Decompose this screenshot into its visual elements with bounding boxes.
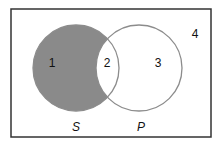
region-2-label: 2 bbox=[104, 56, 111, 70]
region-1-label: 1 bbox=[49, 56, 56, 70]
venn-diagram: 1 2 3 4 S P bbox=[0, 0, 223, 144]
region-3-label: 3 bbox=[155, 56, 162, 70]
set-s-label: S bbox=[72, 120, 80, 134]
set-p-label: P bbox=[137, 120, 145, 134]
region-4-label: 4 bbox=[192, 27, 199, 41]
